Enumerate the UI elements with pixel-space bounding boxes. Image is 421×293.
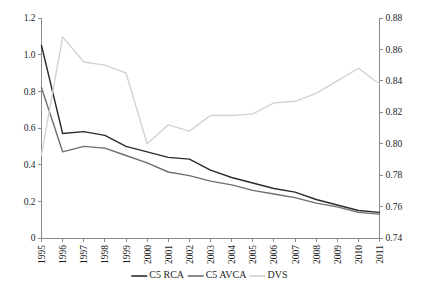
legend-label-c5-rca: C5 RCA xyxy=(149,269,185,280)
left-tick-label: 0.6 xyxy=(24,123,36,133)
right-axis-ticks: 0.740.760.780.800.820.840.860.88 xyxy=(380,13,403,243)
right-tick-label: 0.88 xyxy=(386,13,403,23)
series-line-c5-rca xyxy=(42,46,380,213)
x-tick-label: 2008 xyxy=(312,245,322,264)
chart-legend: C5 RCAC5 AVCADVS xyxy=(131,269,287,280)
x-tick-label: 1998 xyxy=(100,245,110,264)
left-tick-label: 0.4 xyxy=(24,160,36,170)
series-lines xyxy=(42,37,380,214)
x-tick-label: 1995 xyxy=(37,245,47,264)
x-tick-label: 2000 xyxy=(143,245,153,264)
x-tick-label: 2001 xyxy=(164,245,174,264)
x-tick-label: 1997 xyxy=(79,245,89,264)
left-tick-label: 1.0 xyxy=(24,50,36,60)
right-tick-label: 0.74 xyxy=(386,233,403,243)
legend-label-dvs: DVS xyxy=(268,269,288,280)
x-tick-label: 2011 xyxy=(375,245,385,264)
left-tick-label: 0.8 xyxy=(24,87,36,97)
right-axis: 0.740.760.780.800.820.840.860.88 xyxy=(380,13,403,243)
x-tick-label: 2005 xyxy=(248,245,258,264)
right-tick-label: 0.86 xyxy=(386,45,403,55)
left-tick-label: 0.2 xyxy=(24,197,36,207)
left-tick-label: 1.2 xyxy=(24,13,36,23)
legend-label-c5-avca: C5 AVCA xyxy=(206,269,247,280)
right-tick-label: 0.82 xyxy=(386,107,403,117)
line-chart: 00.20.40.60.81.01.2 0.740.760.780.800.82… xyxy=(0,0,421,293)
series-line-dvs xyxy=(42,37,380,155)
x-tick-label: 2004 xyxy=(227,245,237,264)
x-tick-label: 2006 xyxy=(269,245,279,264)
x-tick-label: 2009 xyxy=(333,245,343,264)
x-tick-label: 2010 xyxy=(354,245,364,264)
left-axis: 00.20.40.60.81.01.2 xyxy=(24,13,42,243)
x-axis-ticks: 1995199619971998199920002001200220032004… xyxy=(37,238,385,264)
right-tick-label: 0.80 xyxy=(386,139,403,149)
series-line-c5-avca xyxy=(42,88,380,215)
left-axis-ticks: 00.20.40.60.81.01.2 xyxy=(24,13,42,243)
x-tick-label: 1999 xyxy=(122,245,132,264)
chart-container: 00.20.40.60.81.01.2 0.740.760.780.800.82… xyxy=(0,0,421,293)
right-tick-label: 0.84 xyxy=(386,76,403,86)
right-tick-label: 0.76 xyxy=(386,202,403,212)
right-tick-label: 0.78 xyxy=(386,170,403,180)
x-tick-label: 1996 xyxy=(58,245,68,264)
x-tick-label: 2007 xyxy=(291,245,301,264)
x-tick-label: 2003 xyxy=(206,245,216,264)
x-axis: 1995199619971998199920002001200220032004… xyxy=(37,238,385,264)
left-tick-label: 0 xyxy=(31,233,36,243)
x-tick-label: 2002 xyxy=(185,245,195,264)
